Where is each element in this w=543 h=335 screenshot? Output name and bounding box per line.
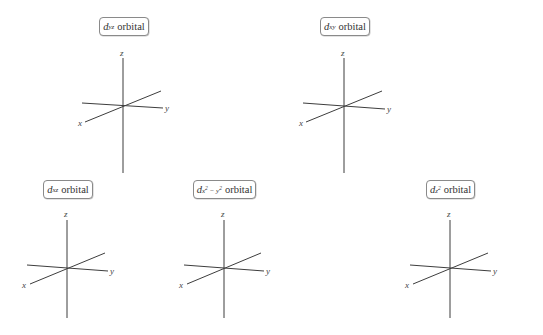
z-axis-label: z <box>220 209 225 219</box>
x-axis-label: x <box>178 280 183 290</box>
z-axis-label: z <box>63 209 68 219</box>
y-axis-label: y <box>109 266 114 276</box>
axes-dxy: z y x <box>298 48 391 173</box>
axes-dxz: z y x <box>21 209 114 318</box>
axes-dx2-y2: z y x <box>178 209 270 318</box>
x-axis-label: x <box>77 118 82 128</box>
y-axis-label: y <box>386 104 391 114</box>
y-axis-label: y <box>164 103 169 113</box>
y-axis-label: y <box>265 266 270 276</box>
axes-canvas: z y x z y x z y x z y x <box>0 0 543 335</box>
axes-dyz: z y x <box>77 48 169 173</box>
axes-dz2: z y x <box>404 209 497 318</box>
x-axis-label: x <box>298 118 303 128</box>
y-axis-label: y <box>492 266 497 276</box>
z-axis-label: z <box>446 209 451 219</box>
x-axis-label: x <box>404 280 409 290</box>
x-axis-label: x <box>21 280 26 290</box>
z-axis-label: z <box>340 48 345 58</box>
z-axis-label: z <box>119 48 124 58</box>
d-orbital-diagram: dyzorbital dxyorbital dxzorbital dx2 − y… <box>0 0 543 335</box>
